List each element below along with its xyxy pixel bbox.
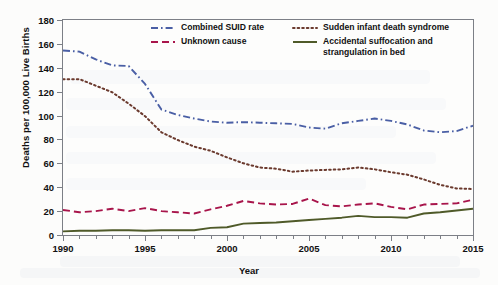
y-axis-label: Deaths per 100,000 Live Births <box>20 0 31 208</box>
y-tick-label: 40 <box>26 182 54 193</box>
x-tick-label: 2010 <box>369 243 413 254</box>
y-tick-label: 100 <box>26 110 54 121</box>
legend-swatch-icon <box>292 22 318 32</box>
x-tick-label: 2005 <box>287 243 331 254</box>
legend-swatch-icon <box>292 36 318 46</box>
chart-figure: Deaths per 100,000 Live Births Year 0204… <box>0 0 498 285</box>
legend-item: Combined SUID rate <box>150 22 264 33</box>
y-tick-label: 140 <box>26 62 54 73</box>
y-tick-label: 0 <box>26 230 54 241</box>
legend-label: Unknown cause <box>181 36 246 47</box>
x-tick-label: 2000 <box>205 243 249 254</box>
x-tick-label: 1990 <box>41 243 85 254</box>
legend-swatch-icon <box>150 22 176 32</box>
y-tick-label: 180 <box>26 15 54 26</box>
legend-item: Sudden infant death syndrome <box>292 22 449 33</box>
y-tick-label: 60 <box>26 158 54 169</box>
x-tick-label: 2015 <box>451 243 495 254</box>
series-line <box>63 199 473 214</box>
legend-label: Accidental suffocation and strangulation… <box>323 36 433 57</box>
chart-legend: Combined SUID rateSudden infant death sy… <box>150 22 470 66</box>
legend-item: Accidental suffocation and strangulation… <box>292 36 433 57</box>
legend-label: Combined SUID rate <box>181 22 264 33</box>
series-line <box>63 79 473 189</box>
y-tick-label: 160 <box>26 38 54 49</box>
legend-label: Sudden infant death syndrome <box>323 22 449 33</box>
x-tick-label: 1995 <box>123 243 167 254</box>
series-line <box>63 209 473 232</box>
y-tick-label: 80 <box>26 134 54 145</box>
legend-item: Unknown cause <box>150 36 246 47</box>
y-tick-label: 20 <box>26 206 54 217</box>
legend-swatch-icon <box>150 36 176 46</box>
x-axis-label: Year <box>0 265 498 276</box>
y-tick-label: 120 <box>26 86 54 97</box>
